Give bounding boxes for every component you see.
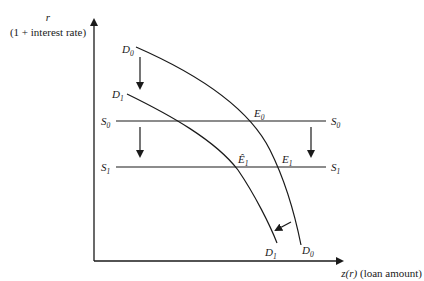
y-axis-desc: (1 + interest rate)	[10, 26, 86, 39]
label-s1-left: S1	[101, 161, 110, 176]
label-s0-left: S0	[101, 115, 111, 130]
arrow-d0-shift-left	[276, 222, 291, 230]
x-axis-label: z(r) (loan amount)	[340, 267, 422, 280]
label-s1-right: S1	[331, 161, 340, 176]
label-d0-top: D0	[121, 43, 134, 58]
label-s0-right: S0	[331, 115, 341, 130]
label-e0: E0	[253, 107, 265, 122]
label-e1-hat: Ê1	[237, 153, 248, 168]
label-d1-top: D1	[111, 88, 124, 103]
demand-curve-d0	[136, 47, 301, 245]
label-e1: E1	[281, 153, 292, 168]
label-d0-bottom: D0	[301, 244, 314, 259]
y-axis-var: r	[46, 11, 51, 23]
credit-market-diagram: r (1 + interest rate) z(r) (loan amount)…	[0, 0, 424, 281]
label-d1-bottom: D1	[264, 246, 277, 261]
